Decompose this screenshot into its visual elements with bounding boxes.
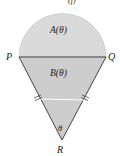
label-q: Q [108, 51, 116, 62]
label-a: A(θ) [49, 25, 67, 36]
label-theta: θ [58, 123, 62, 133]
label-r: R [56, 144, 63, 155]
diagram-figure: (f) A(θ) P Q B(θ) θ R [0, 0, 120, 156]
top-fragment-label: (f) [68, 0, 76, 5]
label-p: P [5, 51, 12, 62]
semicircle-region-a [19, 13, 106, 57]
label-b: B(θ) [50, 68, 67, 79]
